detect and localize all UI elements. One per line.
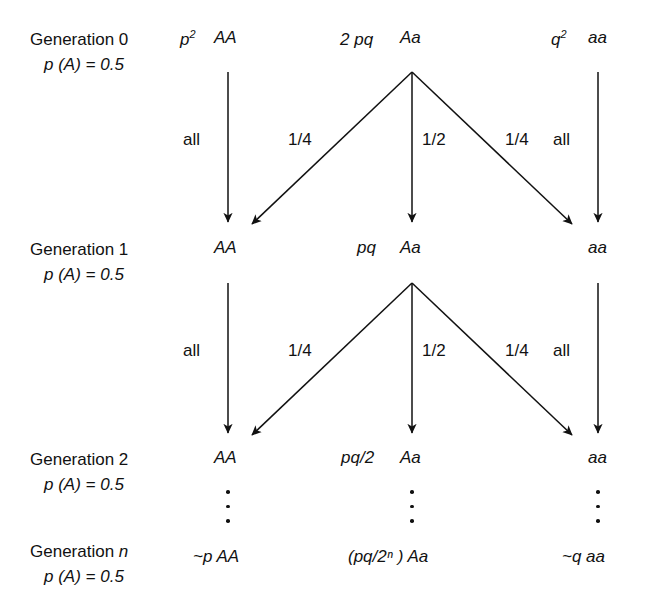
edge-label-half-1: 1/2 [422,341,446,361]
generation-n-name: Generation n [30,542,128,561]
gen2-AA-genotype: AA [214,448,237,468]
generation-1-label: Generation 1 p (A) = 0.5 [30,238,128,287]
generation-0-allele-freq: p (A) = 0.5 [30,53,128,78]
generation-n-allele-freq: p (A) = 0.5 [30,565,128,590]
gen0-aa-frequency: q2 [551,28,567,50]
edge-label-quarter-right-1: 1/4 [505,341,529,361]
generation-1-allele-freq: p (A) = 0.5 [30,263,128,288]
generation-n-label: Generation n p (A) = 0.5 [30,540,128,589]
edge-label-all-right-0: all [553,130,570,150]
edge-label-quarter-right-0: 1/4 [505,130,529,150]
edge-label-all-right-1: all [553,341,570,361]
gen0-AA-frequency: p2 [180,28,196,50]
gen0-aa-genotype: aa [588,28,607,48]
gen2-aa-genotype: aa [588,448,607,468]
gen2-Aa-frequency: pq/2 [341,448,374,468]
transition-gen0-gen1 [228,72,598,224]
edge-label-quarter-left-1: 1/4 [288,341,312,361]
arrow-layer [0,0,654,609]
gen0-Aa-frequency: 2 pq [340,28,373,50]
genn-aa-expression: ~q aa [562,547,605,567]
edge-label-half-0: 1/2 [422,130,446,150]
generation-0-name: Generation 0 [30,30,128,49]
gen2-Aa-genotype: Aa [400,448,421,468]
generation-1-name: Generation 1 [30,240,128,259]
edge-het-to-AA-1 [252,283,412,435]
gen0-Aa-genotype: Aa [400,28,421,48]
gen0-AA-genotype: AA [214,28,237,48]
generation-2-label: Generation 2 p (A) = 0.5 [30,448,128,497]
gen1-Aa-frequency: pq [357,238,376,258]
generation-2-name: Generation 2 [30,450,128,469]
transition-gen1-gen2 [228,283,598,435]
edge-label-all-left-0: all [183,130,200,150]
genn-Aa-expression: (pq/2ⁿ ) Aa [348,547,428,567]
ellipsis-column-Aa [409,490,415,523]
gen1-Aa-genotype: Aa [400,238,421,258]
edge-het-to-AA-0 [252,72,412,224]
generation-2-allele-freq: p (A) = 0.5 [30,473,128,498]
ellipsis-column-aa [595,490,601,523]
genn-AA-expression: ~p AA [193,547,239,567]
gen1-aa-genotype: aa [588,238,607,258]
ellipsis-column-AA [225,490,231,523]
generation-0-label: Generation 0 p (A) = 0.5 [30,28,128,77]
edge-label-all-left-1: all [183,341,200,361]
edge-label-quarter-left-0: 1/4 [288,130,312,150]
gen1-AA-genotype: AA [214,238,237,258]
hardy-weinberg-diagram: Generation 0 p (A) = 0.5 p2 AA 2 pq Aa q… [0,0,654,609]
